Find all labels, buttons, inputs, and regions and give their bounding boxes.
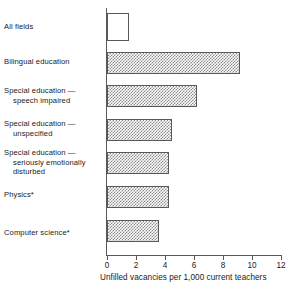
category-label-all-fields: All fields <box>4 22 103 32</box>
category-label-special-education-unspecified: Special education — unspecified <box>4 119 103 138</box>
label-line: speech impaired <box>4 96 103 106</box>
label-line: Special education — <box>4 148 76 157</box>
x-tick-12 <box>281 256 282 260</box>
label-line: Bilingual education <box>4 57 70 66</box>
x-tick-4 <box>165 256 166 260</box>
label-line: Special education — <box>4 119 76 128</box>
label-line: seriously emotionally <box>4 158 103 168</box>
category-label-bilingual-education: Bilingual education <box>4 57 103 67</box>
x-tick-label-2: 2 <box>126 261 146 271</box>
bar-special-education-unspecified <box>107 119 172 141</box>
x-axis-title: Unfilled vacancies per 1,000 current tea… <box>100 272 293 283</box>
y-axis-line <box>106 8 107 256</box>
x-tick-label-12: 12 <box>271 261 291 271</box>
bar-row <box>107 152 281 174</box>
bar-computer-science <box>107 220 159 242</box>
x-tick-label-4: 4 <box>155 261 175 271</box>
x-tick-2 <box>136 256 137 260</box>
x-tick-label-6: 6 <box>184 261 204 271</box>
label-line: unspecified <box>4 129 103 139</box>
bar-all-fields <box>107 13 129 41</box>
x-tick-10 <box>252 256 253 260</box>
label-line: disturbed <box>4 167 103 177</box>
x-tick-0 <box>107 256 108 260</box>
bar-row <box>107 119 281 141</box>
x-tick-6 <box>194 256 195 260</box>
bar-row <box>107 85 281 107</box>
x-tick-label-10: 10 <box>242 261 262 271</box>
label-line: Physics* <box>4 190 34 199</box>
bar-physics <box>107 186 169 208</box>
label-line: Special education — <box>4 86 76 95</box>
bar-row <box>107 52 281 74</box>
x-tick-label-8: 8 <box>213 261 233 271</box>
category-label-special-education-seriously-emotionally-disturbed: Special education — seriously emotionall… <box>4 148 103 177</box>
category-label-special-education-speech-impaired: Special education — speech impaired <box>4 86 103 105</box>
category-label-computer-science: Computer science* <box>4 228 103 238</box>
x-tick-8 <box>223 256 224 260</box>
bar-special-education-speech-impaired <box>107 85 197 107</box>
bar-chart: All fields Bilingual education Special e… <box>0 0 293 287</box>
bar-row <box>107 13 281 41</box>
label-line: Computer science* <box>4 228 70 237</box>
bar-row <box>107 220 281 242</box>
label-line: All fields <box>4 22 33 31</box>
bar-row <box>107 186 281 208</box>
x-tick-label-0: 0 <box>97 261 117 271</box>
category-label-physics: Physics* <box>4 190 103 200</box>
bar-bilingual-education <box>107 52 240 74</box>
bar-special-education-seriously-emotionally-disturbed <box>107 152 169 174</box>
